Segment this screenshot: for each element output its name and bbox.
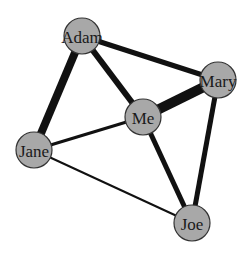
network-graph: AdamMaryMeJaneJoe <box>0 0 251 256</box>
node-label: Mary <box>200 72 237 91</box>
node-me[interactable]: Me <box>125 99 161 135</box>
node-label: Jane <box>19 142 49 161</box>
node-label: Joe <box>181 215 204 234</box>
node-jane[interactable]: Jane <box>16 132 52 168</box>
node-mary[interactable]: Mary <box>200 62 237 98</box>
node-adam[interactable]: Adam <box>61 18 103 54</box>
node-label: Adam <box>61 28 103 47</box>
edge-jane-joe <box>34 150 192 223</box>
edges-layer <box>34 36 218 223</box>
node-label: Me <box>132 109 155 128</box>
edge-mary-joe <box>192 80 218 223</box>
node-joe[interactable]: Joe <box>174 205 210 241</box>
